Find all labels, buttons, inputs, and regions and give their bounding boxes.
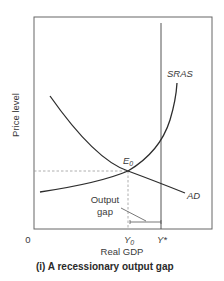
ad-label: AD [186,190,200,201]
figure-caption: (i) A recessionary output gap [36,261,174,272]
x-axis-label: Real GDP [101,246,144,257]
output-gap-label-line2: gap [97,206,113,217]
plot-frame [34,17,212,229]
output-gap-leader-line [121,208,146,221]
output-gap-label-line1: Output [91,194,120,205]
e0-label: E0 [123,155,133,167]
ystar-label: Y* [157,234,167,245]
diagram-canvas: Price level Real GDP 0 Y0 Y* E0 AD SRAS … [0,0,224,281]
ad-curve [50,96,185,193]
sras-label: SRAS [167,68,194,79]
y-axis-label: Price level [10,93,21,137]
y0-label: Y0 [124,234,134,246]
sras-curve [40,83,177,192]
origin-label: 0 [25,234,30,245]
